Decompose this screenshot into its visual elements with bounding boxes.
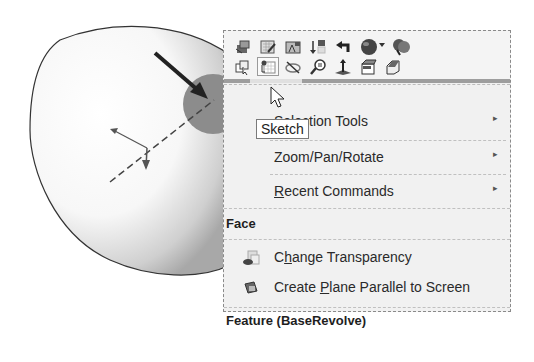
menu-item-label: Change Transparency: [274, 249, 412, 265]
select-other-icon[interactable]: [232, 57, 254, 76]
group-header-feature: Feature (BaseRevolve): [226, 313, 366, 328]
appearance-callout-icon[interactable]: [390, 37, 412, 56]
edit-sketch-icon[interactable]: [257, 37, 279, 56]
appearance-icon[interactable]: [357, 37, 387, 56]
context-toolbar: [224, 31, 510, 79]
submenu-arrow-icon: ▸: [493, 149, 498, 159]
revolved-body-outline: [30, 26, 230, 275]
sketch-icon[interactable]: [257, 57, 279, 76]
context-menu: Selection Tools ▸ Zoom/Pan/Rotate ▸ Rece…: [223, 30, 511, 312]
menu-item-zoom-pan-rotate[interactable]: Zoom/Pan/Rotate ▸: [224, 145, 510, 171]
menu-item-create-plane-parallel[interactable]: Create Plane Parallel to Screen: [224, 275, 510, 301]
group-header-face: Face: [226, 216, 256, 231]
create-plane-icon: [242, 279, 260, 297]
toolbar-divider-bar: [224, 79, 510, 83]
zoom-to-selection-search-icon[interactable]: [307, 57, 329, 76]
rollback-icon[interactable]: [307, 37, 329, 56]
hide-icon[interactable]: [282, 57, 304, 76]
menu-item-label: Zoom/Pan/Rotate: [274, 149, 384, 165]
isolate-icon[interactable]: [357, 57, 379, 76]
normal-to-icon[interactable]: [332, 57, 354, 76]
zoom-to-selection-icon[interactable]: [232, 37, 254, 56]
context-toolbar-row-2: [232, 57, 407, 76]
menu-item-label: Recent Commands: [274, 183, 394, 199]
context-toolbar-row-1: [232, 37, 415, 56]
sketch-tooltip: Sketch: [256, 119, 309, 139]
menu-item-label: Create Plane Parallel to Screen: [274, 279, 470, 295]
mouse-cursor-icon: [270, 86, 286, 114]
submenu-arrow-icon: ▸: [493, 183, 498, 193]
view-orientation-icon[interactable]: [382, 57, 404, 76]
change-transparency-icon: [242, 249, 260, 267]
submenu-arrow-icon: ▸: [493, 113, 498, 123]
menu-item-recent-commands[interactable]: Recent Commands ▸: [224, 179, 510, 205]
menu-item-change-transparency[interactable]: Change Transparency: [224, 245, 510, 271]
edit-feature-icon[interactable]: [282, 37, 304, 56]
parent-child-icon[interactable]: [332, 37, 354, 56]
